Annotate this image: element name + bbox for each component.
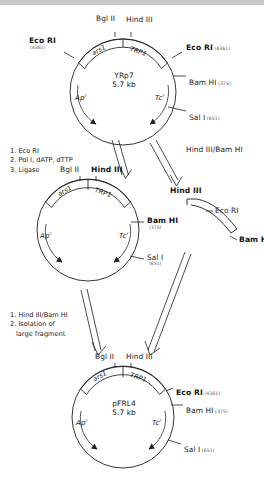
- mid-tcr-arrow: [114, 224, 131, 262]
- bottom-label-bam-group: Bam HI(375): [186, 400, 228, 417]
- bottom-label-sal-group: Sal I(651): [184, 439, 215, 456]
- bottom-label-sal-position: (651): [202, 448, 215, 453]
- steps-two-line3: large fragment: [10, 330, 68, 339]
- top-label-sal: Sal I: [189, 113, 205, 122]
- bottom-label-hind3: Hind III: [126, 353, 153, 361]
- mid-label-sal-position: (651): [149, 262, 161, 267]
- top-label-sal-position: (651): [207, 116, 220, 121]
- bottom-label-eco-group: Eco RI(4361): [176, 382, 220, 399]
- mid-label-tetr: Tcr: [119, 232, 128, 241]
- mid-label-hind3: Hind III: [91, 166, 123, 174]
- fragment-label-bam: Bam HI: [239, 236, 264, 244]
- top-label-eco-right-group: Eco RI(4361): [186, 37, 230, 54]
- top-label-ampr: Apr: [75, 94, 86, 103]
- fragment-bam-leader: [230, 236, 237, 240]
- top-sal-leader: [168, 107, 186, 111]
- top-label-hind3: Hind III: [126, 16, 153, 24]
- top-label-eco-left-position: (4361): [30, 46, 45, 51]
- top-label-bam-group: Bam HI(375): [189, 72, 231, 89]
- bottom-tcr-arrow: [149, 411, 166, 449]
- fragment-label-eco: Eco RI: [215, 207, 239, 215]
- bottom-label-bam: Bam HI: [186, 406, 214, 415]
- mid-sal-leader: [130, 256, 144, 259]
- bottom-apr-arrow: [80, 411, 97, 449]
- linear-fragment: [187, 199, 237, 233]
- bottom-label-eco-position: (4361): [204, 391, 220, 396]
- bottom-plasmid-name: pFRL4: [103, 400, 145, 408]
- bottom-sal-leader: [168, 440, 181, 444]
- arrow-label-hind-bam: Hind III/Bam HI: [186, 146, 243, 154]
- top-plasmid-name: YRp7: [104, 72, 144, 80]
- top-eco-left-leader: [64, 52, 74, 58]
- top-label-sal-group: Sal I(651): [189, 107, 220, 124]
- top-label-eco-left: Eco RI: [29, 37, 56, 45]
- bottom-label-sal: Sal I: [184, 445, 200, 454]
- top-label-eco-right-position: (4361): [214, 46, 230, 51]
- arrow-fragment-ligation: [145, 252, 191, 355]
- mid-label-ampr: Apr: [40, 232, 51, 241]
- bottom-label-eco: Eco RI: [176, 388, 203, 397]
- top-label-bam: Bam HI: [189, 78, 217, 87]
- mid-label-bam: Bam HI: [147, 217, 178, 225]
- plasmid-construction-diagram: Bgl II Hind III Eco RI (4361) Eco RI(436…: [0, 0, 264, 497]
- top-plasmid-size: 5.7 kb: [104, 81, 144, 89]
- top-apr-arrow: [77, 85, 96, 124]
- bottom-label-ampr: Apr: [76, 419, 87, 428]
- bottom-plasmid-size: 5.7 kb: [103, 409, 145, 417]
- steps-two-line2: 2. Isolation of: [10, 320, 68, 329]
- top-label-tetr: Tcr: [155, 94, 164, 103]
- mid-label-bgl2: Bgl II: [60, 166, 79, 174]
- top-label-eco-right: Eco RI: [186, 43, 213, 52]
- top-eco-right-leader: [172, 52, 182, 58]
- top-label-bam-position: (375): [218, 81, 231, 86]
- steps-two-line1: 1. Hind III/Bam HI: [10, 311, 68, 320]
- bottom-label-bam-position: (375): [215, 409, 228, 414]
- top-plasmid-backbone: [70, 39, 176, 145]
- top-tcr-arrow: [150, 85, 169, 124]
- steps-one-line1: 1. Eco RI: [10, 147, 73, 156]
- steps-list-two: 1. Hind III/Bam HI 2. Isolation of large…: [10, 311, 68, 339]
- arrow-step-two: [81, 289, 106, 355]
- bottom-eco-leader: [166, 388, 173, 391]
- mid-apr-arrow: [45, 224, 62, 262]
- mid-label-bam-position: (375): [149, 226, 161, 231]
- top-label-bgl2: Bgl II: [96, 15, 115, 23]
- arrow-hind-bam-digest: [150, 140, 182, 186]
- fragment-label-hind3: Hind III: [170, 187, 202, 195]
- bottom-label-bgl2: Bgl II: [95, 353, 114, 361]
- bottom-label-tetr: Tcr: [152, 419, 161, 428]
